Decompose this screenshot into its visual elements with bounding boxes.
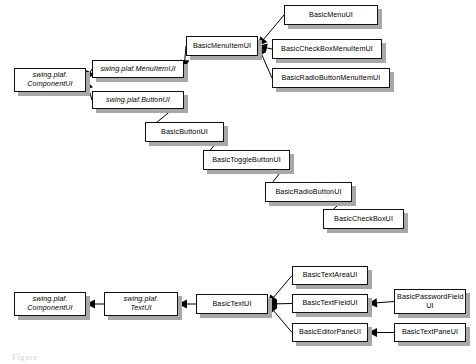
class-hierarchy-diagram: swing.plaf.ComponentUIswing.plaf.MenuIte… xyxy=(0,0,476,364)
class-box-basictextareaui[interactable]: BasicTextAreaUI xyxy=(292,266,368,285)
class-box-basictogglebuttonui[interactable]: BasicToggleButtonUI xyxy=(203,150,290,170)
class-name-label: BasicCheckBoxUI xyxy=(326,215,401,224)
class-box-basicmenuui[interactable]: BasicMenuUI xyxy=(284,5,378,25)
class-name-label: swing.plaf.TextUI xyxy=(107,295,175,312)
class-name-label: BasicTextUI xyxy=(199,300,265,309)
class-name-label: BasicTextPaneUI xyxy=(397,328,463,337)
class-name-label: BasicRadioButtonMenuItemUI xyxy=(275,74,387,83)
class-box-basicbuttonui[interactable]: BasicButtonUI xyxy=(145,122,224,142)
class-name-label: BasicToggleButtonUI xyxy=(206,156,287,165)
class-box-menuitemui[interactable]: swing.plaf.MenuItemUI xyxy=(92,60,184,78)
class-name-label: BasicEditorPaneUI xyxy=(295,328,365,337)
class-name-label: BasicMenuItemUI xyxy=(189,42,255,51)
class-name-label: BasicPasswordFieldUI xyxy=(397,293,463,310)
class-box-basicpasswordfieldui[interactable]: BasicPasswordFieldUI xyxy=(394,289,466,314)
class-box-basiccheckboxui[interactable]: BasicCheckBoxUI xyxy=(323,209,404,229)
class-name-label: BasicCheckBoxMenuItemUI xyxy=(275,45,379,54)
class-name-label: swing.plaf.ComponentUI xyxy=(17,295,83,312)
class-box-basiceditorpaneui[interactable]: BasicEditorPaneUI xyxy=(292,323,368,342)
class-box-basictextpaneui[interactable]: BasicTextPaneUI xyxy=(394,323,466,342)
clipped-footer-text: Figure xyxy=(12,352,38,362)
class-box-basicradiobuttonmenuitemui[interactable]: BasicRadioButtonMenuItemUI xyxy=(272,68,390,88)
class-box-basicmenuitemui[interactable]: BasicMenuItemUI xyxy=(186,36,258,56)
class-box-basictextfieldui[interactable]: BasicTextFieldUI xyxy=(292,294,368,313)
class-box-basiccheckboxmenuitemui[interactable]: BasicCheckBoxMenuItemUI xyxy=(272,39,382,59)
class-name-label: swing.plaf.ComponentUI xyxy=(17,71,83,88)
class-name-label: BasicMenuUI xyxy=(287,11,375,20)
class-name-label: swing.plaf.MenuItemUI xyxy=(95,65,181,74)
class-name-label: BasicTextFieldUI xyxy=(295,299,365,308)
class-box-textui[interactable]: swing.plaf.TextUI xyxy=(104,292,178,316)
class-box-componentui_bottom[interactable]: swing.plaf.ComponentUI xyxy=(14,292,86,316)
class-box-buttonui[interactable]: swing.plaf.ButtonUI xyxy=(92,91,184,109)
class-name-label: swing.plaf.ButtonUI xyxy=(95,96,181,105)
class-box-componentui_top[interactable]: swing.plaf.ComponentUI xyxy=(14,68,86,92)
class-box-basicradiobuttonui[interactable]: BasicRadioButtonUI xyxy=(265,182,352,202)
class-name-label: BasicButtonUI xyxy=(148,128,221,137)
class-box-basictextui[interactable]: BasicTextUI xyxy=(196,294,268,314)
class-name-label: BasicRadioButtonUI xyxy=(268,188,349,197)
class-name-label: BasicTextAreaUI xyxy=(295,271,365,280)
